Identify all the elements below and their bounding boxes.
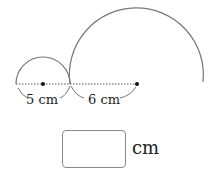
large-radius-label: 6 cm bbox=[88, 92, 120, 107]
large-circle-center-dot bbox=[135, 82, 139, 86]
large-circle-arc bbox=[69, 8, 203, 84]
small-radius-bracket-right bbox=[60, 86, 70, 98]
answer-unit-label: cm bbox=[132, 137, 159, 158]
small-circle-arc bbox=[16, 57, 70, 84]
answer-input-box[interactable] bbox=[62, 130, 126, 168]
large-radius-bracket-right bbox=[120, 87, 136, 98]
small-circle-center-dot bbox=[41, 82, 45, 86]
large-radius-bracket-left bbox=[71, 86, 84, 98]
small-radius-label: 5 cm bbox=[26, 92, 58, 107]
